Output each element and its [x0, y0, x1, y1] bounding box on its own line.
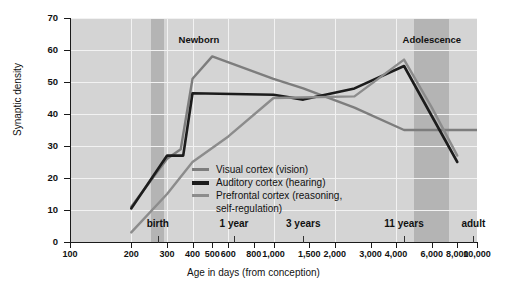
x-tick-label: 200: [124, 249, 139, 259]
x-tick-label: 1,500: [298, 249, 321, 259]
y-tick: [64, 18, 70, 19]
x-tick: [396, 243, 397, 248]
milestone-tick: [158, 236, 159, 243]
x-tick: [131, 243, 132, 248]
synaptic-density-chart: NewbornAdolescence 010203040506070 10020…: [0, 0, 507, 298]
legend-swatch-icon: [192, 181, 209, 185]
x-tick-label: 2,000: [323, 249, 346, 259]
x-tick: [167, 243, 168, 248]
x-tick-label: 600: [221, 249, 236, 259]
legend-item-2: Prefrontal cortex (reasoning,: [192, 189, 342, 202]
x-tick: [371, 243, 372, 248]
x-tick-label: 800: [246, 249, 261, 259]
legend-label-continuation: self-regulation): [216, 202, 342, 215]
milestone-label-3-years: 3 years: [286, 218, 320, 229]
legend-label: Prefrontal cortex (reasoning,: [216, 189, 342, 202]
x-tick-label: 100: [62, 249, 77, 259]
x-tick-label: 6,000: [421, 249, 444, 259]
y-tick: [64, 114, 70, 115]
y-axis-title: Synaptic density: [12, 40, 23, 160]
y-tick: [64, 50, 70, 51]
y-tick-label: 40: [32, 108, 58, 119]
x-tick: [477, 243, 478, 248]
x-tick: [228, 243, 229, 248]
x-tick: [193, 243, 194, 248]
legend-swatch-icon: [192, 194, 209, 197]
x-axis-title: Age in days (from conception): [0, 267, 507, 278]
y-tick-label: 0: [32, 236, 58, 247]
y-tick-label: 10: [32, 204, 58, 215]
x-tick: [457, 243, 458, 248]
legend-item-0: Visual cortex (vision): [192, 163, 342, 176]
milestone-tick: [404, 236, 405, 243]
y-axis-line: [70, 18, 71, 243]
x-tick: [70, 243, 71, 248]
y-tick: [64, 82, 70, 83]
x-tick: [335, 243, 336, 248]
x-tick-label: 4,000: [385, 249, 408, 259]
x-tick-label: 3,000: [359, 249, 382, 259]
milestone-tick: [303, 236, 304, 243]
milestone-label-1-year: 1 year: [220, 218, 249, 229]
y-tick-label: 70: [32, 12, 58, 23]
x-tick: [309, 243, 310, 248]
legend-label: Auditory cortex (hearing): [216, 176, 326, 189]
y-tick: [64, 146, 70, 147]
y-tick: [64, 178, 70, 179]
x-tick-label: 400: [185, 249, 200, 259]
milestone-label-birth: birth: [147, 218, 169, 229]
y-tick-label: 20: [32, 172, 58, 183]
x-tick-label: 10,000: [463, 249, 491, 259]
y-tick-label: 50: [32, 76, 58, 87]
y-tick-label: 60: [32, 44, 58, 55]
y-tick: [64, 210, 70, 211]
milestone-tick: [234, 236, 235, 243]
y-tick-label: 30: [32, 140, 58, 151]
x-tick: [432, 243, 433, 248]
x-tick: [274, 243, 275, 248]
milestone-tick: [473, 236, 474, 243]
x-tick-label: 500: [205, 249, 220, 259]
band-label-newborn: Newborn: [179, 34, 220, 45]
x-tick-label: 1,000: [262, 249, 285, 259]
legend-swatch-icon: [192, 168, 209, 171]
x-tick-label: 300: [160, 249, 175, 259]
milestone-label-adult: adult: [461, 218, 485, 229]
legend-label: Visual cortex (vision): [216, 163, 308, 176]
x-tick: [212, 243, 213, 248]
x-tick: [254, 243, 255, 248]
legend-item-1: Auditory cortex (hearing): [192, 176, 342, 189]
milestone-label-11-years: 11 years: [384, 218, 424, 229]
band-label-adolescence: Adolescence: [403, 34, 462, 45]
chart-legend: Visual cortex (vision)Auditory cortex (h…: [192, 163, 342, 215]
